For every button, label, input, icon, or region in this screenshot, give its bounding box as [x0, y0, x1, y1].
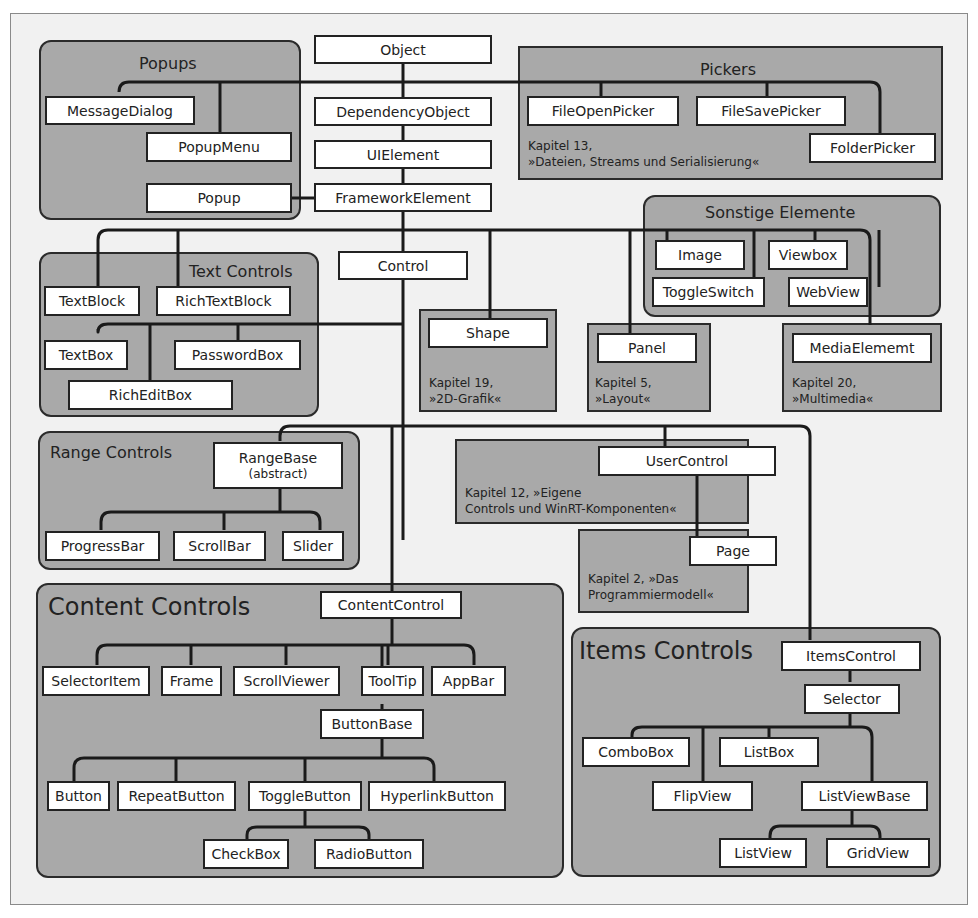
- node-rich-edit-box: RichEditBox: [68, 380, 233, 410]
- node-range-base: RangeBase (abstract): [213, 442, 343, 489]
- node-framework-element: FrameworkElement: [314, 183, 492, 212]
- node-shape: Shape: [428, 318, 548, 348]
- node-label: ListBox: [744, 744, 795, 760]
- group-title-content-controls: Content Controls: [48, 593, 250, 621]
- node-label: ListViewBase: [819, 788, 911, 804]
- node-label: ScrollViewer: [244, 673, 330, 689]
- group-title-items-controls: Items Controls: [579, 637, 753, 665]
- group-title-sonstige: Sonstige Elemente: [705, 203, 855, 222]
- node-label: Popup: [197, 190, 240, 206]
- node-label: CheckBox: [211, 846, 280, 862]
- node-progress-bar: ProgressBar: [45, 531, 160, 561]
- node-label: AppBar: [443, 673, 494, 689]
- node-viewbox: Viewbox: [768, 240, 848, 270]
- node-app-bar: AppBar: [431, 666, 506, 696]
- page-note: Kapitel 2, »Das Programmiermodell«: [588, 571, 714, 603]
- node-flip-view: FlipView: [652, 781, 753, 811]
- node-label: RichEditBox: [109, 387, 192, 403]
- node-label: TextBlock: [59, 293, 125, 309]
- node-label: UserControl: [646, 453, 729, 469]
- node-file-open-picker: FileOpenPicker: [527, 96, 679, 126]
- node-popup: Popup: [146, 183, 292, 213]
- node-label: FlipView: [674, 788, 732, 804]
- group-title-popups: Popups: [139, 54, 197, 73]
- node-list-view-base: ListViewBase: [801, 781, 928, 811]
- group-content-controls: Content Controls: [36, 583, 564, 878]
- node-label: Shape: [466, 325, 510, 341]
- node-selector-item: SelectorItem: [42, 666, 150, 696]
- node-label: ButtonBase: [332, 716, 413, 732]
- node-label: Panel: [628, 340, 666, 356]
- node-list-view: ListView: [719, 838, 807, 868]
- node-tool-tip: ToolTip: [361, 666, 424, 696]
- node-sublabel: (abstract): [249, 466, 308, 482]
- group-title-pickers: Pickers: [700, 60, 756, 79]
- node-label: ToggleSwitch: [663, 284, 754, 300]
- shape-note: Kapitel 19, »2D-Grafik«: [429, 375, 501, 407]
- usercontrol-note: Kapitel 12, »Eigene Controls und WinRT-K…: [465, 485, 677, 517]
- group-title-text-controls: Text Controls: [189, 262, 293, 281]
- node-button: Button: [47, 781, 110, 811]
- node-label: TextBox: [59, 347, 113, 363]
- node-dependency-object: DependencyObject: [314, 97, 492, 126]
- node-label: Viewbox: [779, 247, 838, 263]
- node-scroll-bar: ScrollBar: [173, 531, 266, 561]
- node-label: ToolTip: [368, 673, 416, 689]
- node-list-box: ListBox: [719, 737, 819, 767]
- node-slider: Slider: [282, 531, 344, 561]
- node-label: SelectorItem: [51, 673, 140, 689]
- node-image: Image: [655, 240, 745, 270]
- node-folder-picker: FolderPicker: [809, 133, 936, 163]
- node-file-save-picker: FileSavePicker: [696, 96, 846, 126]
- panel-note: Kapitel 5, »Layout«: [595, 375, 652, 407]
- node-web-view: WebView: [788, 277, 868, 307]
- node-label: WebView: [796, 284, 860, 300]
- node-text-block: TextBlock: [44, 286, 140, 316]
- node-label: Object: [380, 42, 426, 58]
- node-label: FileOpenPicker: [552, 103, 655, 119]
- node-label: Frame: [170, 673, 214, 689]
- node-label: Slider: [293, 538, 333, 554]
- node-label: ContentControl: [338, 597, 444, 613]
- node-label: PasswordBox: [192, 347, 283, 363]
- node-label: DependencyObject: [336, 104, 470, 120]
- node-label: MessageDialog: [67, 103, 173, 119]
- node-grid-view: GridView: [826, 838, 930, 868]
- node-ui-element: UIElement: [314, 140, 492, 169]
- node-label: FileSavePicker: [721, 103, 821, 119]
- node-label: ComboBox: [598, 744, 673, 760]
- node-toggle-button: ToggleButton: [248, 781, 362, 811]
- node-label: FolderPicker: [830, 140, 915, 156]
- pickers-note: Kapitel 13, »Dateien, Streams und Serial…: [528, 138, 759, 170]
- node-button-base: ButtonBase: [320, 709, 424, 739]
- node-label: ProgressBar: [61, 538, 145, 554]
- node-label: Control: [378, 258, 429, 274]
- node-label: HyperlinkButton: [380, 788, 494, 804]
- node-selector: Selector: [804, 684, 900, 714]
- node-media-element: MediaElememt: [792, 333, 932, 363]
- node-control: Control: [338, 251, 468, 280]
- node-label: PopupMenu: [178, 139, 260, 155]
- node-popup-menu: PopupMenu: [146, 132, 292, 162]
- node-frame: Frame: [161, 666, 222, 696]
- node-user-control: UserControl: [598, 446, 776, 476]
- node-label: ListView: [734, 845, 792, 861]
- node-label: ToggleButton: [259, 788, 351, 804]
- node-label: ItemsControl: [806, 648, 896, 664]
- node-message-dialog: MessageDialog: [45, 96, 195, 125]
- node-label: RepeatButton: [128, 788, 224, 804]
- node-label: Button: [55, 788, 102, 804]
- node-check-box: CheckBox: [203, 839, 289, 869]
- node-hyperlink-button: HyperlinkButton: [368, 781, 506, 811]
- node-label: RadioButton: [326, 846, 412, 862]
- node-repeat-button: RepeatButton: [117, 781, 236, 811]
- node-label: ScrollBar: [188, 538, 250, 554]
- node-label: Image: [678, 247, 722, 263]
- node-label: RangeBase: [239, 450, 317, 466]
- node-label: Page: [716, 543, 750, 559]
- node-label: UIElement: [367, 147, 439, 163]
- node-radio-button: RadioButton: [314, 839, 424, 869]
- node-label: RichTextBlock: [175, 293, 271, 309]
- node-items-control: ItemsControl: [781, 641, 921, 671]
- node-label: Selector: [823, 691, 881, 707]
